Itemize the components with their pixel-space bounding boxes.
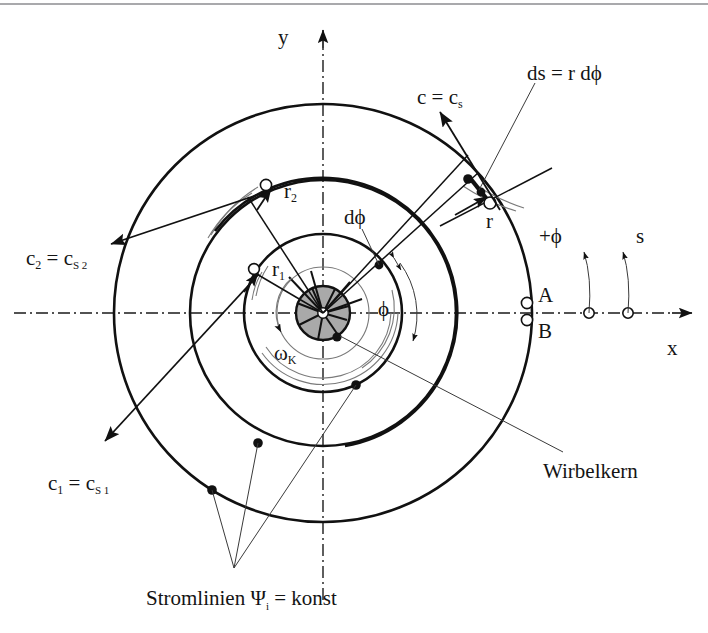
r2-endpoint-circle [260, 179, 271, 190]
c-velocity-label: c = cs [417, 85, 463, 111]
dphi-label: dϕ [344, 205, 366, 229]
figure-page: ωK [0, 0, 708, 633]
ds-leader-group [479, 83, 535, 190]
direction-indicator-group: +ϕ s [539, 224, 644, 318]
r-endpoint-circle [484, 197, 496, 209]
ds-equation-label: ds = r dϕ [527, 61, 602, 85]
ds-endpoint-dot-lower [477, 188, 486, 197]
wirbelkern-label: Wirbelkern [543, 459, 638, 483]
omega-k-label: ωK [274, 341, 297, 367]
r-vector-arrow [455, 197, 487, 215]
c-velocity-vector-group [440, 112, 500, 210]
core-edge-dot [332, 332, 341, 341]
caption-stromlinien: Stromlinien Ψi = konst [146, 586, 337, 612]
c1-label: c1 = cS 1 [48, 471, 109, 497]
ds-endpoint-dot-upper [463, 174, 473, 184]
text-label-group: y x ds = r dϕ c = cs r r2 r1 c2 = cS 2 c… [26, 25, 678, 612]
c2-label: c2 = cS 2 [26, 246, 87, 272]
c2-velocity-vector-group [111, 179, 272, 244]
ds-segment-group [440, 168, 552, 226]
c1-velocity-vector [105, 274, 259, 441]
vortex-diagram-canvas: ωK [0, 0, 708, 633]
point-b-marker [521, 314, 532, 325]
point-a-label: A [538, 283, 554, 307]
streamline-leader-inner [234, 385, 356, 568]
dphi-double-arrow [394, 258, 401, 270]
radius-ray-r2 [248, 197, 323, 313]
phi-label: ϕ [378, 297, 389, 321]
c2-velocity-vector [111, 190, 272, 244]
phi-direction-arrow [584, 252, 590, 313]
x-axis-label: x [667, 336, 678, 360]
point-a-marker [521, 297, 532, 308]
s-direction-arrow [623, 252, 629, 313]
r-label: r [486, 209, 493, 233]
ds-tangent-line [440, 168, 552, 226]
plus-phi-label: +ϕ [539, 224, 562, 248]
s-direction-label: s [636, 224, 644, 248]
ds-leader-line [479, 83, 535, 190]
r1-vector-arrow [244, 273, 258, 292]
r1-label: r1 [272, 257, 285, 283]
point-b-label: B [538, 319, 552, 343]
c-velocity-vector [440, 112, 500, 210]
phi-angle-group: ϕ [378, 263, 417, 341]
y-axis-label: y [278, 25, 289, 49]
r1-endpoint-circle [249, 264, 260, 275]
